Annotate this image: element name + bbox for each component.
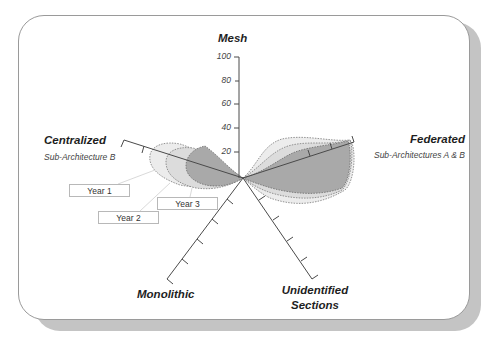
year-2-label: Year 2 <box>98 211 159 224</box>
year-3-label: Year 3 <box>157 197 218 210</box>
unidentified-axis-title-line2: Sections <box>280 299 350 311</box>
unidentified-axis-title-line1: Unidentified <box>280 284 350 296</box>
mesh-tick-60: 60 <box>205 98 231 108</box>
mesh-tick-20: 20 <box>205 146 231 156</box>
mesh-tick-100: 100 <box>205 51 231 61</box>
mesh-axis-title: Mesh <box>218 32 247 44</box>
mesh-tick-40: 40 <box>205 122 231 132</box>
federated-axis-title: Federated <box>410 133 465 145</box>
year-1-label: Year 1 <box>69 184 130 197</box>
monolithic-axis <box>167 178 243 279</box>
centralized-axis-title: Centralized <box>44 134 106 146</box>
federated-axis-subtitle: Sub-Architectures A & B <box>374 150 465 160</box>
radar-plot <box>0 0 493 342</box>
mesh-tick-80: 80 <box>205 75 231 85</box>
centralized-axis-subtitle: Sub-Architecture B <box>44 152 115 162</box>
monolithic-axis-title: Monolithic <box>137 288 195 300</box>
